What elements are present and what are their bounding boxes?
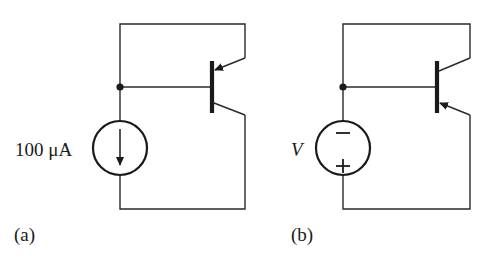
transistor-a-emitter-arrow [215, 58, 245, 70]
node-dot-b [339, 83, 346, 90]
voltage-source-label: V [291, 140, 303, 159]
circuit-figure: 100 μA (a) V (b) [0, 0, 489, 263]
transistor-b-collector [439, 58, 470, 71]
schematic-canvas [0, 0, 489, 263]
panel-caption-a: (a) [14, 225, 35, 244]
wire-b-top-loop [343, 24, 470, 87]
node-dot-a [116, 83, 123, 90]
circuit-b [316, 24, 470, 209]
current-source-label: 100 μA [15, 140, 72, 159]
transistor-b-emitter-arrow [440, 103, 470, 115]
wire-a-top-loop [120, 24, 245, 87]
panel-caption-b: (b) [291, 225, 313, 244]
circuit-a [93, 24, 245, 209]
transistor-a-collector [214, 103, 245, 115]
